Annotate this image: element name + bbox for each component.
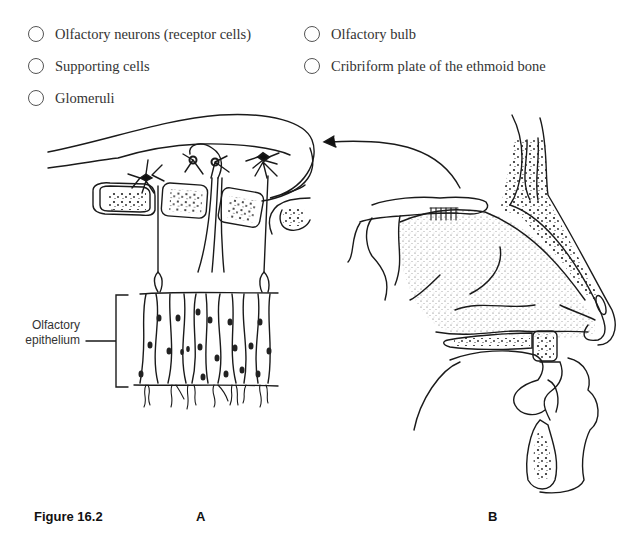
- figure-caption: Figure 16.2: [34, 509, 103, 524]
- nasal-cavity: [399, 209, 595, 337]
- label-line: epithelium: [10, 333, 80, 348]
- olfactory-epithelium-label: Olfactory epithelium: [10, 318, 80, 348]
- panel-a-drawing: [48, 114, 314, 409]
- panel-b-drawing: [324, 115, 615, 493]
- panel-b-label: B: [488, 509, 497, 524]
- olfactory-bulb-outline: [48, 114, 314, 198]
- panel-a-label: A: [196, 509, 205, 524]
- olfactory-anatomy-illustration: [0, 0, 635, 541]
- olfactory-epithelium-cells: [134, 292, 278, 409]
- cribriform-plate-blocks: [93, 183, 310, 234]
- epithelium-bracket: [86, 295, 128, 387]
- pathway-arrow: [330, 141, 460, 188]
- label-line: Olfactory: [10, 318, 80, 333]
